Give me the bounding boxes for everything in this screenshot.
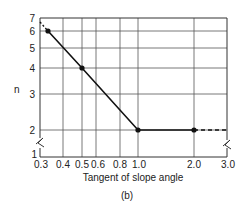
x-tick-labels: 0.3 0.4 0.5 0.6 0.8 1.0 2.0 3.0 (34, 159, 235, 170)
grid-horizontal (40, 31, 227, 130)
x-axis-label: Tangent of slope angle (83, 172, 184, 183)
svg-text:0.6: 0.6 (91, 159, 105, 170)
svg-text:1.0: 1.0 (132, 159, 146, 170)
svg-text:2.0: 2.0 (187, 159, 201, 170)
svg-text:5: 5 (29, 43, 35, 54)
svg-text:0.5: 0.5 (75, 159, 89, 170)
figure-caption: (b) (121, 190, 133, 201)
y-tick-labels: 7 6 5 4 3 2 1 (29, 13, 37, 160)
svg-text:2: 2 (29, 125, 35, 136)
right-axis-break-icon (223, 140, 231, 149)
plot-frame (40, 18, 227, 157)
svg-text:7: 7 (29, 13, 35, 24)
grid-vertical (63, 18, 194, 157)
chart: 7 6 5 4 3 2 1 n 0.3 0.4 0.5 0.6 0.8 1.0 … (0, 0, 247, 208)
y-axis-break-icon (36, 138, 44, 147)
svg-text:0.3: 0.3 (34, 159, 48, 170)
y-axis-label: n (14, 84, 20, 95)
svg-text:3.0: 3.0 (221, 159, 235, 170)
svg-text:4: 4 (29, 63, 35, 74)
svg-text:0.8: 0.8 (113, 159, 127, 170)
svg-text:0.4: 0.4 (56, 159, 70, 170)
svg-text:3: 3 (29, 89, 35, 100)
svg-text:6: 6 (29, 26, 35, 37)
data-points (45, 28, 196, 132)
series-line (48, 31, 194, 130)
